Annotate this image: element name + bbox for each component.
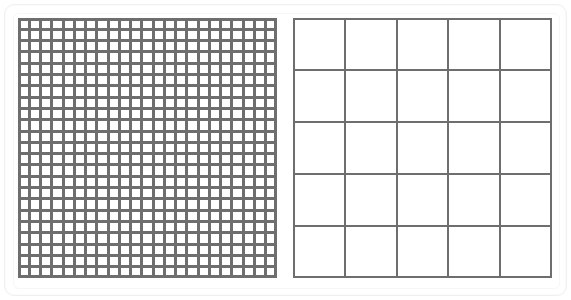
grid-background: [18, 18, 277, 278]
coarse-grid-surface: [293, 18, 552, 278]
fine-grid-surface: [18, 18, 277, 278]
screenshot-root: [0, 0, 571, 300]
grid-background: [293, 18, 552, 278]
coarse-grid-panel[interactable]: [293, 18, 552, 278]
fine-grid-panel[interactable]: [18, 18, 277, 278]
